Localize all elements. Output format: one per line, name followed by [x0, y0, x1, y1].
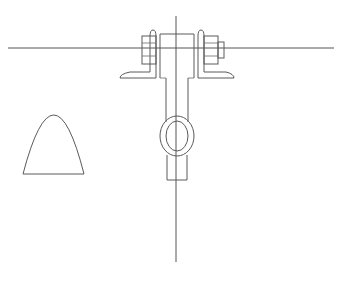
central-clevis-body	[160, 34, 194, 122]
left-angle-bracket	[120, 30, 156, 78]
eye-ring-outer	[160, 116, 194, 156]
right-angle-bracket	[198, 30, 234, 78]
drawing-canvas	[0, 0, 342, 282]
left-bolt-head	[142, 36, 156, 64]
right-nut-and-bolt	[204, 36, 224, 64]
eye-ring-inner	[166, 121, 188, 151]
parabolic-profile	[23, 115, 84, 174]
lower-shank	[167, 155, 187, 180]
technical-drawing	[0, 0, 342, 282]
